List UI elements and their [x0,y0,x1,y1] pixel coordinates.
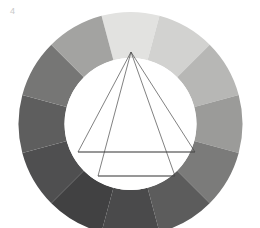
color-wheel-diagram: Twelve-part grayscale color wheel with i… [0,0,260,228]
figure-container: 4 Twelve-part grayscale color wheel with… [0,0,260,228]
